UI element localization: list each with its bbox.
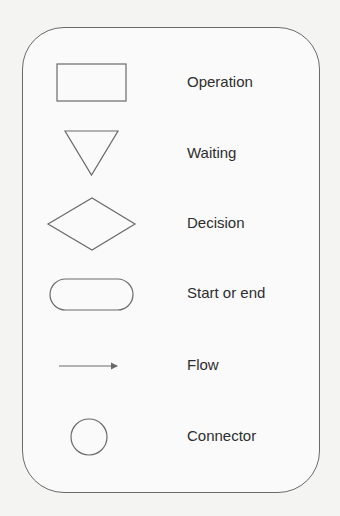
label-start-or-end: Start or end bbox=[187, 283, 265, 303]
start-end-pill-icon bbox=[50, 279, 133, 310]
legend-symbols bbox=[0, 0, 340, 516]
connector-circle-icon bbox=[71, 419, 107, 455]
waiting-triangle-icon bbox=[65, 131, 118, 175]
decision-diamond-icon bbox=[48, 198, 135, 250]
label-operation: Operation bbox=[187, 72, 253, 92]
label-connector: Connector bbox=[187, 426, 256, 446]
label-flow: Flow bbox=[187, 355, 219, 375]
label-decision: Decision bbox=[187, 213, 245, 233]
label-waiting: Waiting bbox=[187, 143, 236, 163]
operation-rectangle-icon bbox=[57, 64, 126, 101]
